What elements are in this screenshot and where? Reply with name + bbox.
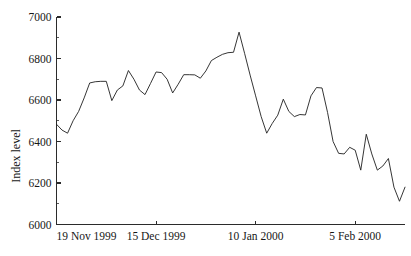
- y-axis-title-text: Index level: [9, 129, 23, 183]
- x-axis-ticks: [57, 221, 356, 225]
- line-chart-canvas: 600062006400660068007000 19 Nov 199915 D…: [0, 0, 411, 256]
- chart-figure: 600062006400660068007000 19 Nov 199915 D…: [0, 0, 411, 256]
- y-tick-label: 6200: [29, 177, 52, 189]
- y-tick-label: 6400: [29, 136, 52, 148]
- x-axis-group: [57, 221, 406, 225]
- y-axis-group: [57, 17, 62, 225]
- x-tick-label: 10 Jan 2000: [228, 230, 284, 242]
- x-tick-label: 5 Feb 2000: [329, 230, 381, 242]
- y-axis-title: Index level: [9, 129, 23, 183]
- y-tick-label: 7000: [29, 11, 52, 23]
- y-tick-label: 6600: [29, 94, 52, 106]
- index-level-series-line: [57, 32, 406, 201]
- x-tick-label: 15 Dec 1999: [127, 230, 186, 242]
- y-tick-label: 6000: [29, 219, 52, 231]
- x-tick-label: 19 Nov 1999: [57, 230, 117, 242]
- x-axis-tick-labels: 19 Nov 199915 Dec 199910 Jan 20005 Feb 2…: [57, 230, 382, 242]
- y-axis-tick-labels: 600062006400660068007000: [29, 11, 52, 231]
- y-tick-label: 6800: [29, 53, 52, 65]
